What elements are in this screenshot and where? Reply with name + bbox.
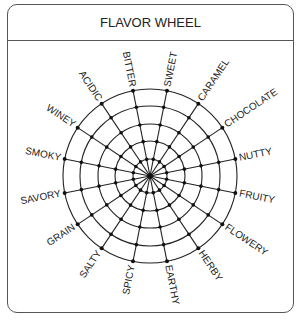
label-sweet: SWEET xyxy=(162,51,180,88)
node-dot xyxy=(199,184,203,188)
node-dot xyxy=(162,184,166,188)
node-dot xyxy=(220,222,224,226)
node-dot xyxy=(90,213,94,217)
node-dot xyxy=(165,259,169,263)
node-dot xyxy=(162,165,166,169)
node-dot xyxy=(233,191,237,195)
node-dot xyxy=(100,102,104,106)
node-dot xyxy=(177,131,181,135)
node-dot xyxy=(155,209,159,213)
node-dot xyxy=(196,246,200,250)
node-dot xyxy=(134,165,138,169)
node-dot xyxy=(165,171,169,175)
label-fruity: FRUITY xyxy=(238,188,276,206)
node-dot xyxy=(177,217,181,221)
node-dot xyxy=(177,155,181,159)
node-dot xyxy=(158,160,162,164)
node-dot xyxy=(80,161,84,165)
node-dot xyxy=(206,213,210,217)
node-dot xyxy=(199,164,203,168)
node-dot xyxy=(177,194,181,198)
node-dot xyxy=(191,145,195,149)
label-spicy: SPICY xyxy=(120,264,137,296)
node-dot xyxy=(100,246,104,250)
node-dot xyxy=(131,259,135,263)
node-dot xyxy=(97,184,101,188)
node-dot xyxy=(114,167,118,171)
label-nutty: NUTTY xyxy=(238,145,273,162)
node-dot xyxy=(168,145,172,149)
node-dot xyxy=(129,203,133,207)
node-dot xyxy=(152,158,156,162)
node-dot xyxy=(141,209,145,213)
node-dot xyxy=(206,135,210,139)
node-dot xyxy=(132,171,136,175)
node-dot xyxy=(129,145,133,149)
node-dot xyxy=(135,106,139,110)
node-dot xyxy=(155,140,159,144)
node-dot xyxy=(217,188,221,192)
node-dot xyxy=(165,89,169,93)
node-dot xyxy=(187,232,191,236)
node-dot xyxy=(191,203,195,207)
node-dot xyxy=(196,102,200,106)
node-dot xyxy=(76,126,80,130)
node-dot xyxy=(105,145,109,149)
label-flowery: FLOWERY xyxy=(223,221,270,258)
node-dot xyxy=(90,135,94,139)
label-smoky: SMOKY xyxy=(24,145,62,163)
node-dot xyxy=(145,158,149,162)
node-dot xyxy=(152,191,156,195)
node-dot xyxy=(97,164,101,168)
node-dot xyxy=(114,181,118,185)
label-savory: SAVORY xyxy=(20,187,62,206)
center-dot xyxy=(148,174,153,179)
node-dot xyxy=(76,222,80,226)
node-dot xyxy=(135,243,139,247)
label-chocolate: CHOCOLATE xyxy=(222,86,280,129)
node-dot xyxy=(165,178,169,182)
node-dot xyxy=(119,131,123,135)
node-dot xyxy=(162,106,166,110)
node-dot xyxy=(132,178,136,182)
node-dot xyxy=(134,184,138,188)
node-dot xyxy=(220,126,224,130)
node-dot xyxy=(63,157,67,161)
node-dot xyxy=(158,188,162,192)
node-dot xyxy=(162,243,166,247)
node-dot xyxy=(145,191,149,195)
node-dot xyxy=(138,123,142,127)
node-dot xyxy=(63,191,67,195)
node-dot xyxy=(233,157,237,161)
label-bitter: BITTER xyxy=(121,51,139,88)
node-dot xyxy=(139,188,143,192)
label-caramel: CARAMEL xyxy=(195,56,231,103)
node-dot xyxy=(119,217,123,221)
label-winey: WINEY xyxy=(45,102,79,130)
node-dot xyxy=(80,188,84,192)
node-dot xyxy=(109,116,113,120)
node-dot xyxy=(183,167,187,171)
node-dot xyxy=(187,116,191,120)
node-dot xyxy=(105,203,109,207)
label-earthy: EARTHY xyxy=(163,264,182,306)
node-dot xyxy=(119,194,123,198)
node-dot xyxy=(183,181,187,185)
label-salty: SALTY xyxy=(77,248,104,280)
node-dot xyxy=(139,160,143,164)
node-dot xyxy=(217,161,221,165)
label-acidic: ACIDIC xyxy=(77,69,105,103)
node-dot xyxy=(109,232,113,236)
node-dot xyxy=(168,203,172,207)
node-dot xyxy=(158,123,162,127)
node-dot xyxy=(141,140,145,144)
node-dot xyxy=(131,89,135,93)
label-grain: GRAIN xyxy=(44,221,76,248)
label-herby: HERBY xyxy=(197,248,225,283)
node-dot xyxy=(138,225,142,229)
flavor-wheel-diagram: BITTERSWEETCARAMELCHOCOLATENUTTYFRUITYFL… xyxy=(0,0,304,330)
node-dot xyxy=(119,155,123,159)
node-dot xyxy=(158,225,162,229)
